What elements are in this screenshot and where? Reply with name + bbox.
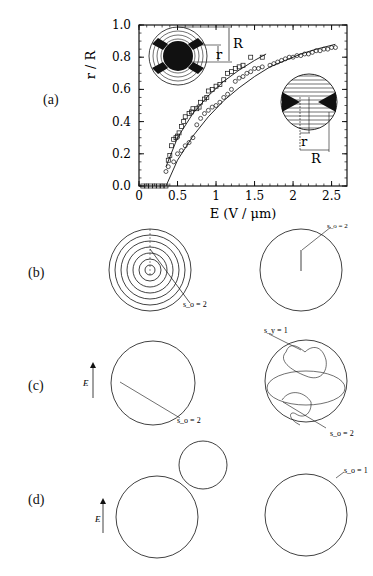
c-right-bottom-annotation: s_o = 2 <box>330 429 354 438</box>
d-left-sphere <box>116 476 198 558</box>
svg-text:0: 0 <box>135 189 143 203</box>
y-axis-ticks: 0.00.20.40.60.81.0 <box>112 18 347 193</box>
svg-text:0.8: 0.8 <box>112 50 131 64</box>
svg-text:2.5: 2.5 <box>322 189 341 203</box>
svg-text:1.0: 1.0 <box>112 18 131 32</box>
d-inset-sphere <box>179 441 227 489</box>
svg-text:2: 2 <box>289 189 297 203</box>
c-left-annotation: s_o = 2 <box>177 416 201 425</box>
x-axis-label: E (V / μm) <box>210 206 277 221</box>
c-field-label: E <box>82 378 89 388</box>
svg-text:0.2: 0.2 <box>112 147 131 161</box>
panel-d-diagrams: E s_o = 1 <box>94 441 368 558</box>
inset2-r-label: r <box>301 134 308 149</box>
panel-b-diagrams: s_o = 2 s_o = 2 <box>109 222 348 311</box>
c-right-sphere <box>265 340 347 422</box>
d-field-label: E <box>94 514 101 524</box>
inset-radial-diagram: R r <box>149 27 244 85</box>
svg-text:0.5: 0.5 <box>168 189 187 203</box>
inset-striped-sphere: r R <box>280 74 338 166</box>
svg-text:1: 1 <box>212 189 220 203</box>
b-right-annotation: s_o = 2 <box>327 222 348 230</box>
chart-panel-a: 00.511.522.5 0.00.20.40.60.81.0 E (V / μ… <box>83 18 347 221</box>
figure-canvas: 00.511.522.5 0.00.20.40.60.81.0 E (V / μ… <box>0 0 373 576</box>
c-left-sphere <box>111 341 195 425</box>
concentric-circles <box>109 229 191 311</box>
inset-R-label: R <box>233 36 244 51</box>
c-right-top-annotation: s_y = 1 <box>264 326 288 335</box>
svg-text:0.6: 0.6 <box>112 82 131 96</box>
inset2-R-label: R <box>311 151 322 166</box>
b-left-annotation: s_o = 2 <box>183 300 207 309</box>
svg-text:0.4: 0.4 <box>112 115 131 129</box>
inset-r-label: r <box>216 47 223 62</box>
panel-c-diagrams: E s_o = 2 s_y = 1 s_o = 2 <box>82 326 354 438</box>
svg-text:0.0: 0.0 <box>112 179 131 193</box>
svg-text:1.5: 1.5 <box>245 189 264 203</box>
d-right-sphere <box>265 474 347 556</box>
y-axis-label: r / R <box>83 49 98 79</box>
d-right-annotation: s_o = 1 <box>344 466 368 475</box>
